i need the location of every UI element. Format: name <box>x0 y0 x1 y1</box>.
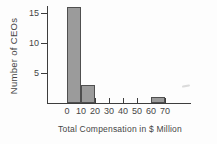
plot-area: 51015010203040506070 <box>0 0 217 144</box>
x-tick-label: 70 <box>157 106 173 116</box>
histogram-bar <box>67 7 81 103</box>
y-tick-label: 5 <box>19 68 39 78</box>
y-axis-title: Number of CEOs <box>8 11 20 101</box>
histogram-bar <box>81 85 95 103</box>
y-tick-label: 10 <box>19 38 39 48</box>
y-axis-tick <box>41 73 47 74</box>
x-axis-title: Total Compensation in $ Million <box>40 124 200 136</box>
histogram-figure: 51015010203040506070 Number of CEOs Tota… <box>0 0 217 144</box>
y-axis-tick <box>41 43 47 44</box>
y-tick-label: 15 <box>19 8 39 18</box>
y-axis-line <box>47 6 48 104</box>
y-axis-tick <box>41 13 47 14</box>
x-axis-line <box>47 103 191 104</box>
